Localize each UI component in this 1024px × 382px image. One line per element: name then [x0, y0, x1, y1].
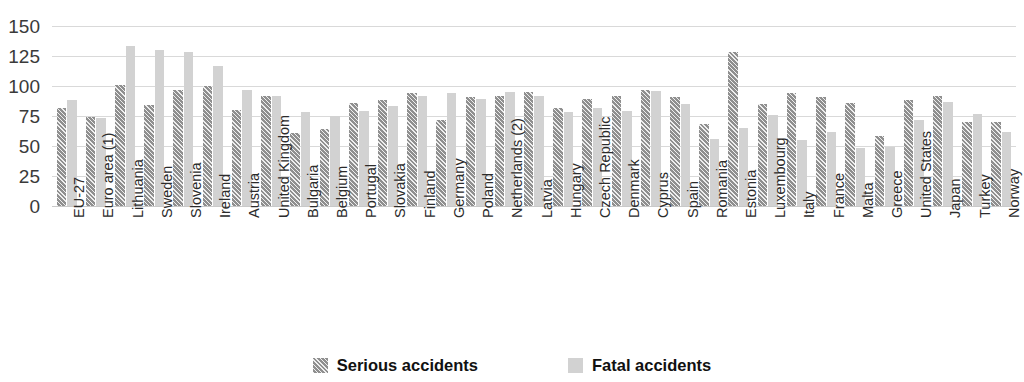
x-axis-label: Finland: [423, 170, 438, 218]
x-axis-label: Sweden: [160, 166, 175, 218]
y-axis-tick-100: 100: [8, 77, 40, 96]
serious-swatch-icon: [313, 358, 328, 373]
x-axis-label: Romania: [715, 160, 730, 218]
x-axis-label: Austria: [247, 173, 262, 218]
x-axis-label: Poland: [481, 173, 496, 218]
x-axis-label: Greece: [890, 170, 905, 218]
legend-item-serious: Serious accidents: [313, 356, 478, 375]
chart-legend: Serious accidents Fatal accidents: [0, 352, 1024, 378]
x-axis-label: Italy: [802, 191, 817, 218]
legend-item-fatal: Fatal accidents: [568, 356, 711, 375]
bar-serious: [933, 96, 943, 206]
bar-serious: [349, 103, 359, 206]
legend-label-fatal: Fatal accidents: [592, 356, 711, 375]
bar-serious: [816, 97, 826, 206]
x-axis-label: Ireland: [218, 174, 233, 218]
x-axis-label: United Kingdom: [277, 115, 292, 218]
x-axis-label: Hungary: [569, 163, 584, 218]
x-axis-label: Cyprus: [656, 172, 671, 218]
bar-serious: [612, 96, 622, 206]
x-axis-label: EU-27: [72, 177, 87, 218]
x-axis-label: Belgium: [335, 166, 350, 218]
bar-serious: [524, 92, 534, 206]
y-axis-tick-150: 150: [8, 17, 40, 36]
y-axis-tick-50: 50: [19, 137, 40, 156]
x-axis-label: Netherlands (2): [510, 118, 525, 218]
x-axis-label: Denmark: [627, 159, 642, 218]
fatal-swatch-icon: [568, 358, 583, 373]
bar-serious: [86, 117, 96, 206]
x-axis-label: United States: [919, 131, 934, 218]
bar-serious: [495, 96, 505, 206]
x-axis-label: Norway: [1007, 169, 1022, 218]
y-axis-tick-25: 25: [19, 167, 40, 186]
x-axis-label: Portugal: [364, 164, 379, 218]
x-axis-label: France: [832, 173, 847, 218]
x-axis-label: Estonia: [744, 170, 759, 218]
x-axis-label: Germany: [452, 158, 467, 218]
x-axis-label: Slovakia: [393, 163, 408, 218]
x-axis-label: Czech Republic: [598, 116, 613, 218]
x-axis-label: Spain: [686, 181, 701, 218]
bar-serious: [670, 97, 680, 206]
y-axis-tick-125: 125: [8, 47, 40, 66]
x-axis-category-labels: EU-27Euro area (1)LithuaniaSwedenSloveni…: [52, 216, 1016, 341]
x-axis-label: Euro area (1): [101, 133, 116, 218]
bar-serious: [115, 85, 125, 206]
bar-serious: [261, 96, 271, 206]
bar-serious: [57, 108, 67, 206]
bar-serious: [962, 122, 972, 206]
x-axis-label: Japan: [948, 178, 963, 218]
bar-serious: [232, 110, 242, 206]
bar-serious: [641, 90, 651, 206]
y-axis-tick-75: 75: [19, 107, 40, 126]
x-axis-label: Luxembourg: [773, 137, 788, 218]
chart-root: 0255075100125150 EU-27Euro area (1)Lithu…: [0, 0, 1024, 382]
bar-serious: [378, 100, 388, 206]
bar-serious: [758, 104, 768, 206]
bar-serious: [787, 93, 797, 206]
x-axis-label: Lithuania: [131, 159, 146, 218]
legend-label-serious: Serious accidents: [337, 356, 478, 375]
bar-serious: [904, 100, 914, 206]
x-axis-label: Bulgaria: [306, 165, 321, 218]
x-axis-label: Latvia: [540, 179, 555, 218]
bar-serious: [407, 93, 417, 206]
y-axis-tick-0: 0: [29, 197, 40, 216]
y-axis: 0255075100125150: [0, 0, 46, 215]
bar-serious: [203, 86, 213, 206]
x-axis-label: Malta: [861, 183, 876, 218]
x-axis-label: Turkey: [978, 174, 993, 218]
x-axis-label: Slovenia: [189, 162, 204, 218]
